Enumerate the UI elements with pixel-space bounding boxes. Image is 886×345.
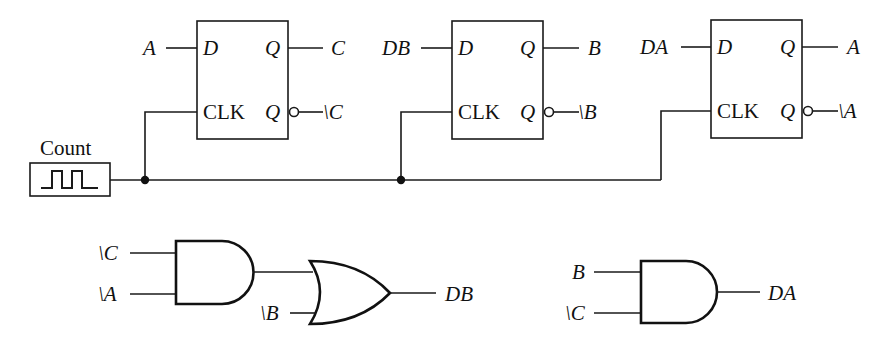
qbar-pin-label: Q xyxy=(265,100,280,124)
clk-pin-label: CLK xyxy=(458,100,500,124)
qbar-output-label: \B xyxy=(578,100,597,124)
logic-output-label: DA xyxy=(767,281,796,305)
q-pin-label: Q xyxy=(265,36,280,60)
and-input-label: \C xyxy=(565,301,586,325)
d-flip-flop-b: DB D Q B CLK Q \B xyxy=(381,21,601,139)
inversion-bubble-icon xyxy=(290,108,299,117)
and-gate-icon xyxy=(176,241,254,304)
and-gate-icon xyxy=(641,261,717,323)
and-input-label: \A xyxy=(98,282,117,306)
clock-box xyxy=(30,163,110,196)
inversion-bubble-icon xyxy=(804,107,813,116)
d-flip-flop-a: DA D Q A CLK Q \A xyxy=(639,20,860,138)
clk-pin-label: CLK xyxy=(203,100,245,124)
d-pin-label: D xyxy=(716,35,732,59)
or-gate-icon xyxy=(310,261,390,324)
junction-dot xyxy=(397,176,405,184)
ff-input-label: DA xyxy=(639,35,668,59)
d-pin-label: D xyxy=(457,36,473,60)
sequential-circuit-diagram: Count A D Q C CLK Q \C DB D Q B xyxy=(0,0,886,345)
d-flip-flop-c: A D Q C CLK Q \C xyxy=(141,21,346,139)
da-logic-network: B \C DA xyxy=(565,260,796,325)
db-logic-network: \C \A \B DB xyxy=(98,241,473,325)
q-pin-label: Q xyxy=(780,35,795,59)
or-input-label: \B xyxy=(260,301,279,325)
logic-output-label: DB xyxy=(444,282,473,306)
qbar-output-label: \C xyxy=(323,100,344,124)
clk-pin-label: CLK xyxy=(717,99,759,123)
and-input-label: \C xyxy=(98,241,119,265)
clock-source: Count xyxy=(30,136,110,196)
ff-input-label: A xyxy=(141,36,156,60)
and-input-label: B xyxy=(572,260,585,284)
d-pin-label: D xyxy=(202,36,218,60)
qbar-pin-label: Q xyxy=(520,100,535,124)
qbar-output-label: \A xyxy=(838,99,857,123)
qbar-pin-label: Q xyxy=(780,99,795,123)
inversion-bubble-icon xyxy=(545,108,554,117)
ff-input-label: DB xyxy=(381,36,410,60)
q-pin-label: Q xyxy=(520,36,535,60)
q-output-label: A xyxy=(845,35,860,59)
clock-label: Count xyxy=(40,136,92,160)
q-output-label: C xyxy=(331,36,346,60)
junction-dot xyxy=(141,176,149,184)
q-output-label: B xyxy=(588,36,601,60)
